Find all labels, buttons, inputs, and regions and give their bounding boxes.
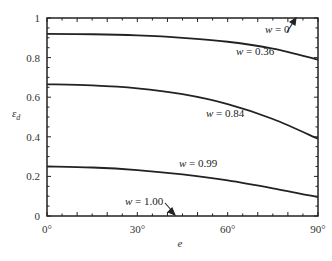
x-tick-labels: 0°30°60°90° [42, 223, 326, 235]
curve [47, 34, 318, 60]
chart: 00.20.40.60.81 0°30°60°90° εd e w = 0 w … [0, 0, 332, 261]
arrow-w100 [165, 203, 175, 215]
x-tick-label: 60° [220, 223, 235, 235]
y-tick-label: 0.2 [26, 170, 40, 182]
y-tick-labels: 00.20.40.60.81 [26, 12, 40, 222]
curves [47, 34, 318, 197]
x-tick-label: 90° [310, 223, 325, 235]
plot-frame [47, 18, 318, 216]
label-w0: w = 0 [265, 23, 290, 35]
y-tick-label: 1 [35, 12, 41, 24]
x-axis-title: e [178, 237, 183, 249]
x-tick-label: 0° [42, 223, 52, 235]
label-w036: w = 0.36 [236, 45, 275, 57]
y-tick-label: 0.6 [26, 91, 40, 103]
label-w100: w = 1.00 [125, 195, 164, 207]
curve [47, 167, 318, 198]
curve [47, 84, 318, 138]
y-tick-label: 0 [35, 210, 41, 222]
label-w084: w = 0.84 [206, 107, 245, 119]
y-tick-label: 0.8 [26, 52, 40, 64]
y-axis-title: εd [12, 107, 21, 122]
label-w099: w = 0.99 [179, 157, 218, 169]
y-tick-label: 0.4 [26, 131, 40, 143]
x-tick-label: 30° [130, 223, 145, 235]
axis-ticks [47, 18, 318, 216]
